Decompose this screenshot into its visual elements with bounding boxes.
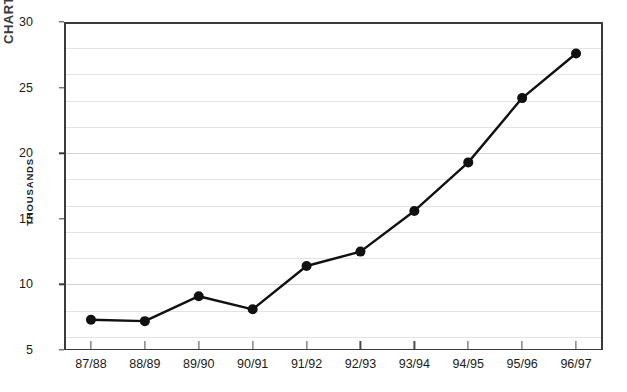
- series-line: [91, 53, 576, 321]
- data-point: [302, 261, 312, 271]
- y-tick-label: 20: [0, 146, 33, 160]
- data-point: [248, 304, 258, 314]
- plot-frame-right: [601, 22, 603, 350]
- y-tick-label: 10: [0, 277, 33, 291]
- data-point: [194, 291, 204, 301]
- data-point: [86, 315, 96, 325]
- series-markers: [86, 48, 581, 326]
- data-series-layer: [64, 22, 603, 350]
- data-point: [140, 316, 150, 326]
- y-tick-label: 15: [0, 212, 33, 226]
- plot-frame-bottom: [64, 349, 603, 350]
- data-point: [355, 247, 365, 257]
- data-point: [571, 48, 581, 58]
- plot-area: 51015202530: [64, 22, 603, 350]
- y-tick-label: 30: [0, 15, 33, 29]
- plot-frame-top: [64, 22, 603, 24]
- data-point: [409, 206, 419, 216]
- data-point: [463, 157, 473, 167]
- y-tick-label: 5: [0, 343, 33, 357]
- line-chart-figure: CHART THOUSANDS 51015202530 87/8888/8989…: [0, 0, 627, 392]
- data-point: [517, 93, 527, 103]
- x-tick-label: 96/97: [541, 357, 611, 371]
- y-tick-label: 25: [0, 81, 33, 95]
- plot-frame-left: [64, 22, 66, 350]
